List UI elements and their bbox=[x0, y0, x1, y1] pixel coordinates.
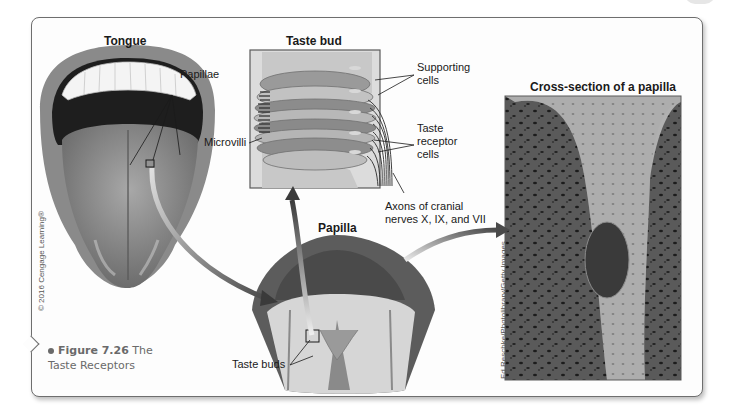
axons-label-line1: Axons of cranial bbox=[385, 200, 463, 213]
cross-section-photo bbox=[505, 96, 681, 380]
supporting-cells-label-line1: Supporting bbox=[417, 61, 470, 74]
figure-number: Figure 7.26 bbox=[58, 344, 129, 357]
taste-bud-illustration bbox=[250, 50, 392, 188]
taste-buds-label: Taste buds bbox=[232, 358, 285, 371]
copyright-credit: © 2016 Cengage Learning® bbox=[37, 211, 46, 311]
tongue-title: Tongue bbox=[104, 34, 146, 48]
bullet-icon bbox=[48, 348, 54, 354]
taste-receptor-label-line2: receptor bbox=[417, 135, 457, 148]
taste-receptor-label-line3: cells bbox=[417, 148, 439, 161]
figure-caption: Figure 7.26 The Taste Receptors bbox=[48, 343, 178, 373]
papillae-label: Papillae bbox=[180, 68, 219, 81]
papilla-title: Papilla bbox=[318, 221, 357, 235]
taste-receptor-label-line1: Taste bbox=[417, 122, 443, 135]
photo-credit: Ed Reschke/Photolibrary/Getty Images bbox=[499, 241, 508, 379]
cross-section-title: Cross-section of a papilla bbox=[530, 80, 676, 94]
supporting-cells-label-line2: cells bbox=[417, 74, 439, 87]
papilla-to-cross-section-arrow bbox=[405, 230, 498, 260]
microvilli-label: Microvilli bbox=[204, 136, 246, 149]
axons-label-line2: nerves X, IX, and VII bbox=[385, 213, 486, 226]
taste-bud-title: Taste bud bbox=[286, 34, 342, 48]
